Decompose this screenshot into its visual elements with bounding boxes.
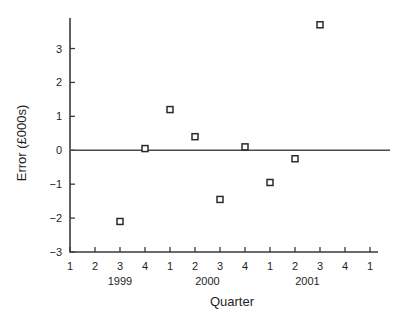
data-point-marker <box>217 196 223 202</box>
x-tick-label: 3 <box>117 260 123 272</box>
data-point-marker <box>117 218 123 224</box>
data-point-marker <box>317 22 323 28</box>
data-point-marker <box>242 144 248 150</box>
y-tick-label: −3 <box>49 246 62 258</box>
chart-canvas: −3−2−10123 1234123412341 199920002001 Qu… <box>0 0 416 315</box>
x-year-label: 1999 <box>108 275 132 287</box>
data-point-marker <box>292 156 298 162</box>
y-axis-title: Error (£000s) <box>14 105 29 182</box>
data-point-marker <box>167 107 173 113</box>
y-tick-label: 0 <box>56 144 62 156</box>
x-tick-label: 2 <box>292 260 298 272</box>
x-year-label: 2001 <box>295 275 319 287</box>
x-tick-label: 4 <box>142 260 148 272</box>
x-tick-label: 4 <box>242 260 248 272</box>
x-tick-label: 2 <box>192 260 198 272</box>
y-tick-labels: −3−2−10123 <box>49 43 62 258</box>
data-point-marker <box>192 134 198 140</box>
data-points-group <box>117 22 323 225</box>
y-tick-label: −1 <box>49 178 62 190</box>
x-axis-title: Quarter <box>210 294 255 309</box>
x-tick-label: 3 <box>217 260 223 272</box>
y-tick-label: 2 <box>56 76 62 88</box>
y-tick-label: 1 <box>56 110 62 122</box>
x-tick-label: 4 <box>342 260 348 272</box>
data-point-marker <box>142 146 148 152</box>
x-tick-label: 1 <box>367 260 373 272</box>
x-tick-label: 3 <box>317 260 323 272</box>
x-year-group-labels: 199920002001 <box>108 275 320 287</box>
x-year-label: 2000 <box>195 275 219 287</box>
x-tick-label: 1 <box>67 260 73 272</box>
axis-spine <box>70 18 378 252</box>
error-by-quarter-chart: −3−2−10123 1234123412341 199920002001 Qu… <box>0 0 416 315</box>
x-tick-label: 1 <box>167 260 173 272</box>
x-tick-label: 2 <box>92 260 98 272</box>
axes-group <box>70 18 378 252</box>
x-tick-label: 1 <box>267 260 273 272</box>
data-point-marker <box>267 179 273 185</box>
y-tick-label: 3 <box>56 43 62 55</box>
y-tick-label: −2 <box>49 212 62 224</box>
x-tick-labels: 1234123412341 <box>67 260 373 272</box>
